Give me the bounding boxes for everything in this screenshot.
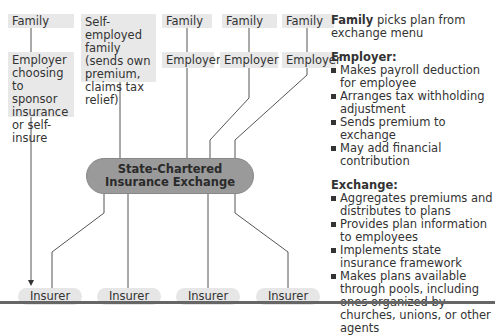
- insurance-exchange-node: State-Chartered Insurance Exchange: [86, 158, 254, 194]
- employer-box-4: Employer: [220, 52, 278, 68]
- legend-item: Arranges tax withholding adjustment: [331, 90, 499, 116]
- family-box-1: Family: [8, 14, 74, 28]
- family-box-5: Family: [282, 14, 334, 28]
- family-label: Family: [166, 14, 203, 28]
- legend-panel: Family picks plan from exchange menu Emp…: [331, 14, 499, 335]
- family-box-3: Family: [162, 14, 212, 28]
- family-label: Family: [286, 14, 323, 28]
- legend-item: Sends premium to exchange: [331, 116, 499, 142]
- legend-item: Implements state insurance framework: [331, 244, 499, 270]
- exchange-line2: Insurance Exchange: [105, 176, 235, 189]
- legend-item: Aggregates premiums and distributes to p…: [331, 192, 499, 218]
- family-label: Family: [12, 14, 49, 28]
- bottom-rule: [0, 301, 495, 304]
- employer-label: Employer: [224, 53, 279, 67]
- family-label: Family: [226, 14, 263, 28]
- employer-box-5: Employer: [282, 52, 336, 68]
- employer-box-3: Employer: [162, 52, 214, 68]
- legend-item: Provides plan information to employees: [331, 218, 499, 244]
- legend-item: Makes payroll deduction for employee: [331, 64, 499, 90]
- family-box-4: Family: [222, 14, 277, 28]
- legend-item: May add financial contribution: [331, 142, 499, 168]
- legend-family-bold: Family: [331, 13, 373, 27]
- legend-family: Family picks plan from exchange menu: [331, 14, 499, 40]
- self-employed-label: Self-employed family (sends own premium,…: [85, 15, 151, 107]
- legend-exchange-section: Exchange: Aggregates premiums and distri…: [331, 179, 499, 335]
- employer-label: Employer: [166, 53, 221, 67]
- employer-sponsor-box: Employer choosing to sponsor insurance o…: [8, 52, 74, 117]
- legend-employer-section: Employer: Makes payroll deduction for em…: [331, 51, 499, 168]
- self-employed-family-box: Self-employed family (sends own premium,…: [81, 14, 156, 82]
